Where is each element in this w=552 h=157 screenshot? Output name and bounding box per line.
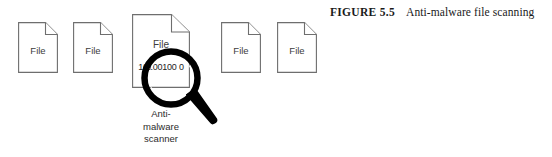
file-icon-1: File (18, 22, 58, 73)
file-label: File (73, 46, 113, 56)
file-binary-content: 10100100 0 (132, 62, 190, 72)
file-icon-scanned: File 10100100 0 (132, 14, 190, 88)
scanner-label-line-3: scanner (130, 133, 192, 146)
file-page-icon (132, 14, 190, 88)
figure-container: FIGURE 5.5Anti-malware file scanning Fil… (0, 0, 552, 157)
file-icon-2: File (73, 22, 113, 73)
scanner-label-line-2: malware (130, 121, 192, 134)
file-label: File (277, 46, 317, 56)
figure-caption-label: FIGURE 5.5 (330, 6, 395, 18)
file-icon-4: File (221, 22, 261, 73)
file-label: File (18, 46, 58, 56)
file-label: File (221, 46, 261, 56)
scanner-label: Anti- malware scanner (130, 108, 192, 146)
scanner-label-line-1: Anti- (130, 108, 192, 121)
figure-caption-text: Anti-malware file scanning (406, 6, 534, 18)
figure-caption: FIGURE 5.5Anti-malware file scanning (330, 6, 534, 18)
file-icon-5: File (277, 22, 317, 73)
file-label: File (132, 40, 190, 50)
